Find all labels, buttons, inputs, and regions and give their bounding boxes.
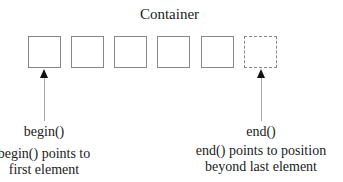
- container-element-1: [28, 36, 61, 68]
- container-element-3: [114, 36, 147, 68]
- end-label: end(): [191, 124, 331, 140]
- end-arrow-line: [261, 77, 262, 121]
- container-title-text: Container: [140, 6, 199, 22]
- diagram-title: Container: [0, 6, 343, 23]
- begin-arrow-line: [44, 77, 45, 121]
- end-description-line2: beyond last element: [191, 159, 331, 175]
- container-element-4: [157, 36, 190, 68]
- container-element-2: [71, 36, 104, 68]
- begin-description-line1: begin() points to: [0, 146, 94, 162]
- past-the-end-position: [244, 36, 277, 68]
- end-arrow-head-icon: [257, 69, 265, 78]
- container-element-5: [201, 36, 234, 68]
- begin-description-line2: first element: [0, 162, 94, 178]
- end-description-line1: end() points to position: [191, 143, 331, 159]
- begin-label: begin(): [0, 124, 94, 140]
- begin-arrow-head-icon: [40, 69, 48, 78]
